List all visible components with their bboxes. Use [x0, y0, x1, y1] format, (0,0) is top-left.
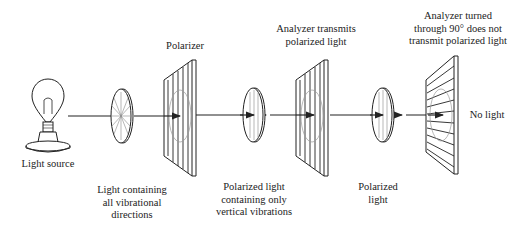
label-line: vertical vibrations: [204, 206, 304, 219]
polarizer-filter: [164, 60, 196, 176]
label-line: Analyzer turned: [395, 10, 521, 23]
analyzer-filter-crossed: [426, 56, 458, 174]
label-line: Polarized light: [204, 181, 304, 194]
label-line: all vibrational: [82, 197, 182, 210]
polarized-light-disc: [240, 88, 265, 142]
label-line: Light containing: [82, 184, 182, 197]
label-line: light: [348, 194, 408, 207]
polarized-light-disc-2: [370, 88, 394, 142]
label-polarized-light: Polarized light: [348, 181, 408, 206]
label-line: through 90° does not: [395, 23, 521, 36]
label-light-source: Light source: [18, 158, 78, 171]
label-analyzer-turned: Analyzer turned through 90° does not tra…: [395, 10, 521, 48]
light-bulb-icon: [26, 79, 70, 152]
label-line: Polarized: [348, 181, 408, 194]
label-line: directions: [82, 209, 182, 222]
analyzer-filter-aligned: [296, 60, 328, 176]
unpolarized-light-disc: [111, 89, 133, 143]
label-no-light: No light: [462, 109, 512, 122]
label-polarized-vertical: Polarized light containing only vertical…: [204, 181, 304, 219]
label-line: Analyzer transmits: [266, 23, 366, 36]
label-line: containing only: [204, 194, 304, 207]
label-line: polarized light: [266, 36, 366, 49]
label-line: transmit polarized light: [395, 35, 521, 48]
label-polarizer: Polarizer: [150, 40, 220, 53]
label-unpolarized-light: Light containing all vibrational directi…: [82, 184, 182, 222]
label-analyzer-transmits: Analyzer transmits polarized light: [266, 23, 366, 48]
